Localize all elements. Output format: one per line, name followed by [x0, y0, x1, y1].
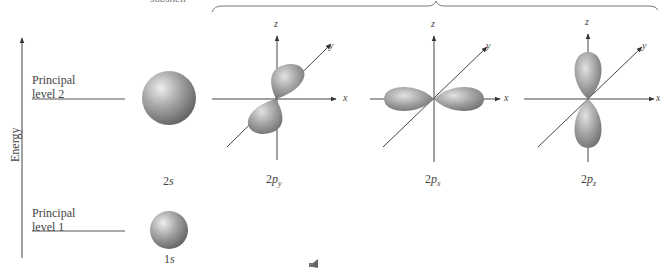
axis-y-label-2py: y	[329, 40, 333, 51]
axis-z-label-2py: z	[274, 18, 278, 29]
orbital-2s-sphere	[142, 71, 196, 125]
orbital-label-2py: 2py	[266, 172, 282, 188]
level-2-label-line2: level 2	[32, 87, 75, 101]
axis-x-label-2px: x	[504, 92, 508, 103]
orbital-label-2pz: 2pz	[581, 172, 596, 188]
speaker-icon[interactable]	[309, 259, 318, 268]
axis-x-label-2py: x	[343, 92, 347, 103]
axis-x-label-2pz: x	[656, 92, 660, 103]
subshell-brace	[212, 1, 658, 12]
level-1-label: Principal level 1	[32, 206, 75, 234]
orbital-label-2px: 2px	[425, 172, 441, 188]
orbital-2px	[370, 36, 500, 162]
orbital-2pz	[524, 34, 654, 162]
axis-z-label-2pz: z	[585, 16, 589, 27]
level-1-label-line2: level 1	[32, 220, 75, 234]
orbital-label-1s: 1s	[164, 252, 175, 267]
axis-y-label-2px: y	[486, 40, 490, 51]
level-2-label-line1: Principal	[32, 73, 75, 87]
orbital-1s-sphere	[150, 211, 188, 249]
axis-z-label-2px: z	[431, 18, 435, 29]
level-1-label-line1: Principal	[32, 206, 75, 220]
top-caption-partial: subshell	[150, 0, 186, 4]
level-2-label: Principal level 2	[32, 73, 75, 101]
energy-axis-label: Energy	[8, 128, 23, 162]
axis-y-label-2pz: y	[642, 40, 646, 51]
orbital-label-2s: 2s	[163, 174, 174, 189]
orbital-2py	[212, 36, 336, 160]
